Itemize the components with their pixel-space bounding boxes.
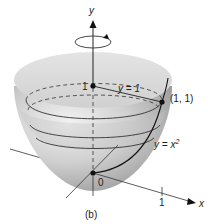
y-axis-label: y: [88, 5, 95, 16]
point-label: (1, 1): [170, 93, 193, 104]
curve-label: y = x2: [153, 138, 179, 150]
y-axis-arrow: [90, 20, 97, 28]
figure-caption: (b): [85, 209, 97, 220]
origin-label: 0: [98, 177, 104, 188]
paraboloid-diagram: y 1 y = 1 (1, 1) y = x2 0 1 x (b): [0, 0, 208, 224]
y-tick-label: 1: [82, 81, 88, 92]
point-origin: [90, 170, 95, 175]
point-0-1: [90, 83, 95, 88]
x-axis-arrow: [187, 198, 196, 205]
point-1-1: [159, 99, 164, 104]
x-tick-label: 1: [159, 197, 165, 208]
x-axis-label: x: [198, 198, 205, 209]
line-label: y = 1: [117, 83, 140, 94]
